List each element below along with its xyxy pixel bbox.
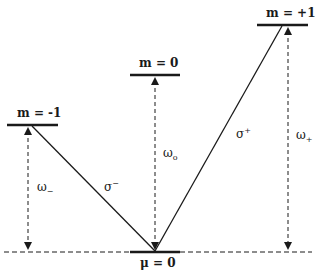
- label-sigma-minus: σ−: [104, 177, 119, 194]
- label-ground: μ = 0: [140, 256, 176, 270]
- label-omega-minus: ω−: [37, 180, 54, 199]
- label-omega-0: ωo: [163, 146, 178, 165]
- energy-level-diagram: [0, 0, 317, 271]
- label-m-plus-1: m = +1: [266, 6, 316, 20]
- label-omega-plus: ω+: [296, 128, 313, 147]
- label-sigma-plus: σ+: [236, 124, 251, 141]
- label-m-0: m = 0: [139, 56, 178, 70]
- label-m-minus-1: m = -1: [17, 106, 61, 120]
